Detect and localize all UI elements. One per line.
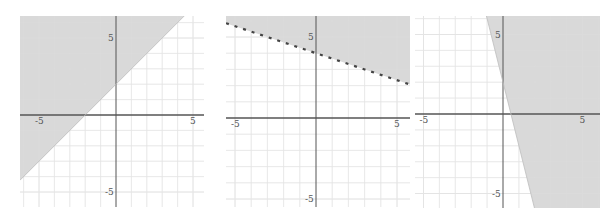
- graph-canvas: -555-5: [20, 16, 204, 207]
- y-tick-label-5: 5: [308, 32, 314, 42]
- y-tick-label-neg5: -5: [305, 194, 314, 204]
- x-tick-label-5: 5: [190, 116, 196, 126]
- graph-canvas: -555-5: [226, 16, 410, 207]
- x-tick-label-neg5: -5: [35, 116, 44, 126]
- y-tick-label-neg5: -5: [105, 187, 114, 197]
- x-tick-label-neg5: -5: [231, 119, 240, 129]
- x-tick-label-neg5: -5: [420, 115, 429, 125]
- x-tick-label-5: 5: [394, 119, 400, 129]
- inequality-graph-2: -555-5: [226, 16, 410, 207]
- inequality-graph-1: -555-5: [20, 16, 204, 207]
- y-tick-label-5: 5: [108, 33, 114, 43]
- x-tick-label-5: 5: [580, 115, 586, 125]
- inequality-graph-3: -555-5: [415, 16, 600, 208]
- y-tick-label-neg5: -5: [492, 189, 501, 199]
- graph-canvas: -555-5: [415, 16, 600, 208]
- y-tick-label-5: 5: [495, 30, 501, 40]
